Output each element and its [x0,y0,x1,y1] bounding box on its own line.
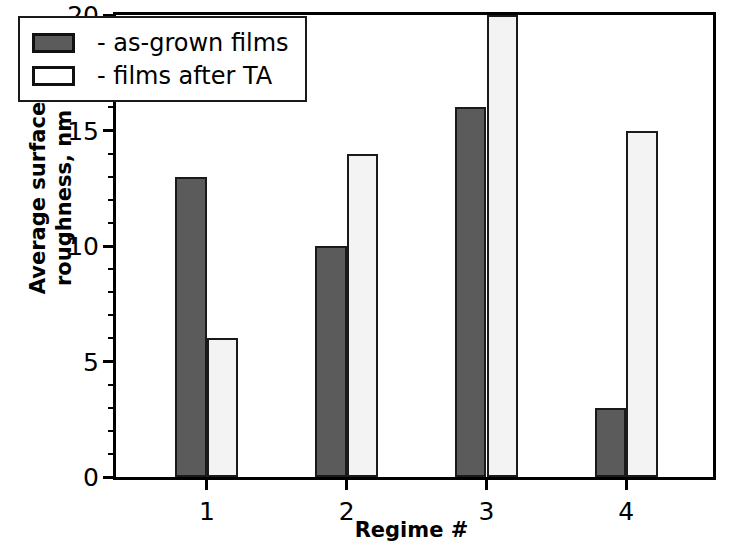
bar [315,246,346,477]
y-tick-minor [108,453,116,455]
x-tick-major [205,477,208,490]
bar-chart-figure: Average surface roughness, nm 0510152012… [0,0,744,552]
y-tick-minor [108,106,116,108]
y-tick-minor [108,291,116,293]
y-tick-minor [108,337,116,339]
legend-item-after-ta: - films after TA [32,59,289,92]
bar [207,338,238,477]
y-tick-minor [108,384,116,386]
bar [595,408,626,477]
y-tick-minor [108,176,116,178]
y-tick-major [103,245,116,248]
x-tick-major [485,477,488,490]
legend-swatch-after-ta [32,66,75,86]
y-tick-minor [108,153,116,155]
y-tick-major [103,360,116,363]
y-tick-label: 0 [83,463,99,492]
x-tick-major [345,477,348,490]
y-tick-label: 10 [67,232,99,261]
x-tick-major [625,477,628,490]
bar [175,177,206,477]
legend-label-as-grown: - as-grown films [97,29,289,57]
x-axis-title: Regime # [113,518,710,542]
bar [626,131,657,478]
y-tick-minor [108,268,116,270]
bar [455,107,486,477]
legend-item-as-grown: - as-grown films [32,26,289,59]
y-tick-minor [108,199,116,201]
y-tick-minor [108,222,116,224]
y-tick-major [103,129,116,132]
y-tick-minor [108,430,116,432]
bar [487,15,518,477]
legend-label-after-ta: - films after TA [97,62,272,90]
bar [347,154,378,477]
legend: - as-grown films - films after TA [18,16,307,102]
y-tick-minor [108,314,116,316]
y-tick-minor [108,407,116,409]
y-tick-label: 15 [67,116,99,145]
y-tick-major [103,476,116,479]
y-tick-label: 5 [83,347,99,376]
legend-swatch-as-grown [32,33,75,53]
